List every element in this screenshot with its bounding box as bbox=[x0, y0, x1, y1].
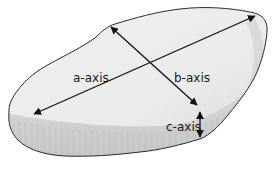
pebble-shape bbox=[0, 0, 276, 169]
a-axis-label: a-axis bbox=[73, 72, 109, 84]
c-axis-label: c-axis bbox=[166, 121, 201, 133]
b-axis-label: b-axis bbox=[174, 72, 210, 84]
pebble-axes-diagram: a-axis b-axis c-axis bbox=[0, 0, 276, 169]
